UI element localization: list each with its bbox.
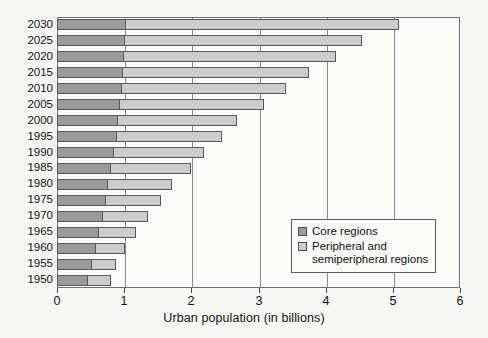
bar-segment-core	[57, 211, 102, 222]
y-axis-label-1985: 1985	[1, 162, 53, 173]
x-tick-2	[191, 288, 192, 293]
bar-row	[57, 243, 125, 254]
legend-swatch-peripheral-icon	[298, 242, 307, 251]
y-axis-label-2005: 2005	[1, 99, 53, 110]
bar-segment-core	[57, 19, 125, 30]
bar-segment-peripheral	[125, 19, 399, 30]
bar-segment-peripheral	[122, 67, 309, 78]
bar-segment-peripheral	[102, 211, 148, 222]
bar-row	[57, 275, 111, 286]
bar-row	[57, 179, 172, 190]
y-axis-label-2025: 2025	[1, 35, 53, 46]
y-axis-category-labels: 2030202520202015201020052000199519901985…	[0, 17, 53, 288]
x-tick-label-5: 5	[378, 294, 408, 308]
bar-segment-peripheral	[116, 131, 222, 142]
x-tick-label-2: 2	[176, 294, 206, 308]
y-axis-label-2010: 2010	[1, 83, 53, 94]
bar-segment-core	[57, 195, 105, 206]
bar-segment-core	[57, 227, 98, 238]
bar-segment-core	[57, 259, 91, 270]
bar-segment-peripheral	[95, 243, 125, 254]
bar-row	[57, 195, 161, 206]
bar-segment-peripheral	[110, 163, 191, 174]
y-axis-label-1955: 1955	[1, 258, 53, 269]
y-axis-label-1980: 1980	[1, 178, 53, 189]
x-tick-1	[124, 288, 125, 293]
legend-label-core: Core regions	[312, 225, 378, 238]
y-axis-label-2015: 2015	[1, 67, 53, 78]
y-axis-label-2000: 2000	[1, 115, 53, 126]
bar-segment-core	[57, 115, 117, 126]
bar-segment-peripheral	[117, 115, 237, 126]
bar-row	[57, 19, 399, 30]
legend-label-peripheral: Peripheral and semiperipheral regions	[312, 240, 428, 266]
y-axis-label-1950: 1950	[1, 274, 53, 285]
bar-row	[57, 51, 336, 62]
x-axis-title: Urban population (in billions)	[0, 311, 488, 325]
bar-row	[57, 35, 362, 46]
x-tick-4	[326, 288, 327, 293]
bar-row	[57, 163, 191, 174]
bar-segment-core	[57, 147, 113, 158]
x-tick-label-6: 6	[445, 294, 475, 308]
bar-row	[57, 211, 148, 222]
bar-segment-peripheral	[87, 275, 111, 286]
x-tick-3	[259, 288, 260, 293]
x-tick-5	[393, 288, 394, 293]
bar-segment-core	[57, 99, 119, 110]
bar-segment-peripheral	[124, 35, 362, 46]
bar-row	[57, 83, 286, 94]
x-tick-label-1: 1	[109, 294, 139, 308]
y-axis-label-2020: 2020	[1, 51, 53, 62]
bar-segment-core	[57, 131, 116, 142]
chart-legend: Core regions Peripheral and semiperipher…	[291, 219, 436, 273]
y-axis-label-1975: 1975	[1, 194, 53, 205]
bar-segment-peripheral	[121, 83, 286, 94]
x-tick-label-4: 4	[311, 294, 341, 308]
bar-segment-peripheral	[105, 195, 161, 206]
bar-row	[57, 67, 309, 78]
y-axis-label-1990: 1990	[1, 147, 53, 158]
y-axis-label-2030: 2030	[1, 19, 53, 30]
y-axis-label-1965: 1965	[1, 226, 53, 237]
bar-segment-core	[57, 67, 122, 78]
bar-segment-peripheral	[119, 99, 264, 110]
bar-segment-core	[57, 179, 107, 190]
y-axis-label-1970: 1970	[1, 210, 53, 221]
legend-item-peripheral: Peripheral and semiperipheral regions	[298, 240, 428, 266]
bar-segment-core	[57, 243, 95, 254]
y-axis-label-1995: 1995	[1, 131, 53, 142]
bar-segment-core	[57, 163, 110, 174]
bar-row	[57, 227, 136, 238]
bar-segment-core	[57, 275, 87, 286]
bar-segment-core	[57, 51, 123, 62]
bar-segment-peripheral	[98, 227, 136, 238]
stacked-bar-chart: 2030202520202015201020052000199519901985…	[0, 0, 488, 338]
bar-row	[57, 115, 237, 126]
bar-segment-peripheral	[123, 51, 336, 62]
bar-segment-peripheral	[107, 179, 172, 190]
bar-segment-core	[57, 35, 124, 46]
bar-row	[57, 147, 204, 158]
x-tick-label-3: 3	[244, 294, 274, 308]
bar-segment-peripheral	[113, 147, 204, 158]
legend-swatch-core-icon	[298, 227, 307, 236]
legend-item-core: Core regions	[298, 225, 428, 238]
bar-row	[57, 131, 222, 142]
bar-segment-core	[57, 83, 121, 94]
bar-row	[57, 259, 116, 270]
y-axis-label-1960: 1960	[1, 242, 53, 253]
x-tick-6	[460, 288, 461, 293]
bar-row	[57, 99, 264, 110]
x-tick-label-0: 0	[42, 294, 72, 308]
bar-segment-peripheral	[91, 259, 116, 270]
x-tick-0	[57, 288, 58, 293]
